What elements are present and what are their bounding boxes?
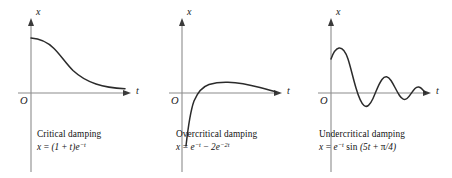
origin-label: O — [320, 96, 328, 107]
origin-label: O — [171, 96, 179, 107]
t-axis-label: t — [136, 86, 139, 96]
caption-title: Undercritical damping — [319, 128, 405, 141]
critical-damping-curve — [31, 38, 125, 89]
caption-undercritical-damping: Undercritical damping x = e−t sin (5t + … — [319, 128, 405, 154]
damping-figure: x t O Critical damping x = (1 + t)e−t x … — [0, 0, 452, 178]
x-axis-label: x — [36, 7, 40, 17]
x-axis-label: x — [187, 7, 191, 17]
t-axis-arrowhead — [274, 90, 282, 96]
caption-formula: x = e−t sin (5t + π/4) — [319, 141, 405, 154]
caption-title: Overcritical damping — [176, 128, 257, 141]
x-axis-label: x — [336, 7, 340, 17]
panel-overcritical-damping: x t O Overcritical damping x = e−t − 2e−… — [150, 0, 302, 178]
undercritical-damping-curve — [331, 48, 426, 106]
x-axis-arrowhead — [179, 18, 185, 26]
t-axis-label: t — [436, 86, 439, 96]
x-axis-arrowhead — [28, 18, 34, 26]
t-axis-arrowhead — [123, 90, 131, 96]
caption-formula: x = (1 + t)e−t — [37, 141, 101, 154]
caption-formula: x = e−t − 2e−2t — [176, 141, 257, 154]
origin-label: O — [20, 96, 28, 107]
panel-critical-damping: x t O Critical damping x = (1 + t)e−t — [0, 0, 152, 178]
caption-critical-damping: Critical damping x = (1 + t)e−t — [37, 128, 101, 154]
caption-title: Critical damping — [37, 128, 101, 141]
x-axis-arrowhead — [328, 18, 334, 26]
caption-overcritical-damping: Overcritical damping x = e−t − 2e−2t — [176, 128, 257, 154]
t-axis-label: t — [287, 86, 290, 96]
panel-undercritical-damping: x t O Undercritical damping x = e−t sin … — [298, 0, 452, 178]
